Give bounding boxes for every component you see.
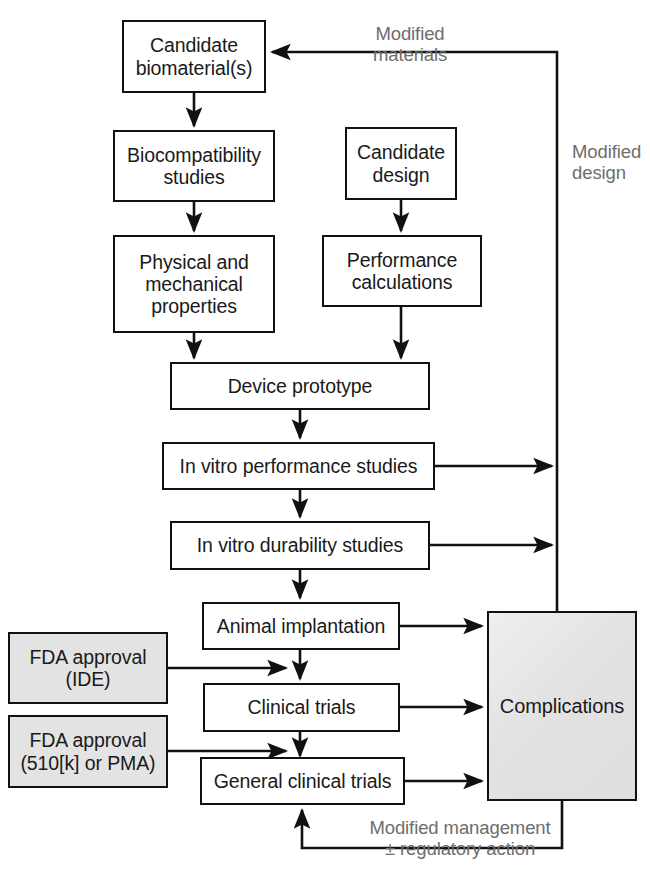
node-performance-calculations[interactable]: Performance calculations (322, 235, 482, 307)
node-in-vitro-performance-studies-label: In vitro performance studies (176, 455, 422, 477)
node-fda-approval-510k-pma[interactable]: FDA approval (510[k] or PMA) (8, 715, 168, 788)
node-candidate-design[interactable]: Candidate design (345, 127, 457, 200)
node-in-vitro-durability-studies[interactable]: In vitro durability studies (170, 521, 430, 570)
node-complications-label: Complications (496, 695, 628, 718)
node-device-prototype[interactable]: Device prototype (170, 362, 430, 410)
node-clinical-trials-label: Clinical trials (244, 696, 360, 718)
node-biocompatibility-studies[interactable]: Biocompatibility studies (113, 130, 275, 202)
edge-label-modified-management: Modified management ± regulatory action (320, 818, 600, 859)
node-biocompatibility-studies-label: Biocompatibility studies (123, 144, 265, 188)
edge-label-modified-materials: Modified materials (340, 24, 480, 65)
node-general-clinical-trials[interactable]: General clinical trials (200, 757, 405, 805)
node-animal-implantation[interactable]: Animal implantation (202, 602, 400, 650)
node-device-prototype-label: Device prototype (224, 375, 377, 397)
node-in-vitro-performance-studies[interactable]: In vitro performance studies (162, 442, 435, 490)
node-physical-mechanical-properties[interactable]: Physical and mechanical properties (113, 235, 275, 333)
node-fda-approval-ide[interactable]: FDA approval (IDE) (8, 632, 168, 704)
node-in-vitro-durability-studies-label: In vitro durability studies (193, 534, 407, 556)
node-candidate-biomaterials[interactable]: Candidate biomaterial(s) (122, 20, 266, 93)
flowchart-canvas: Candidate biomaterial(s) Biocompatibilit… (0, 0, 650, 875)
node-fda-approval-510k-pma-label: FDA approval (510[k] or PMA) (16, 729, 159, 773)
node-performance-calculations-label: Performance calculations (343, 249, 462, 293)
node-general-clinical-trials-label: General clinical trials (210, 770, 396, 792)
node-candidate-biomaterials-label: Candidate biomaterial(s) (132, 34, 257, 78)
node-candidate-design-label: Candidate design (353, 141, 449, 185)
node-complications[interactable]: Complications (487, 611, 637, 801)
edge-label-modified-design: Modified design (572, 142, 650, 183)
node-animal-implantation-label: Animal implantation (213, 615, 389, 637)
node-physical-mechanical-properties-label: Physical and mechanical properties (135, 251, 252, 317)
node-clinical-trials[interactable]: Clinical trials (203, 683, 400, 732)
node-fda-approval-ide-label: FDA approval (IDE) (26, 646, 151, 690)
